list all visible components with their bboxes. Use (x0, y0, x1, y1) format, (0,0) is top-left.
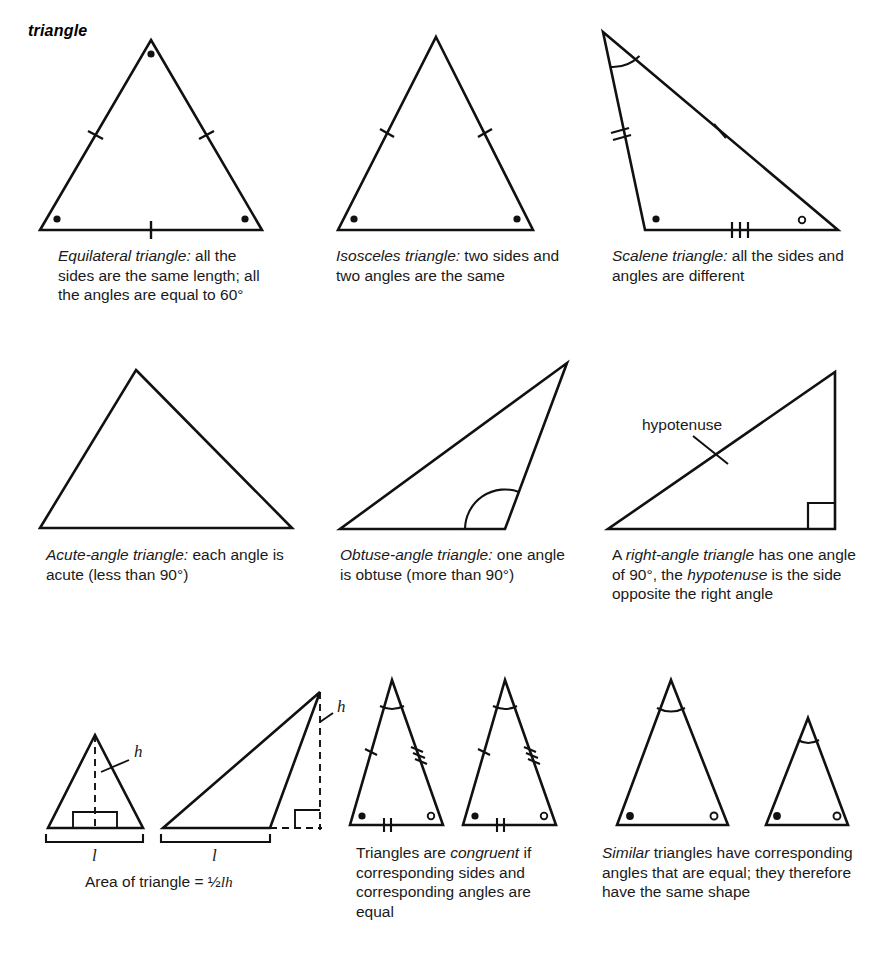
right-triangle-drawing: hypotenuse (590, 330, 878, 545)
area-obtuse-base-label: l (212, 846, 217, 865)
equilateral-triangle-drawing (0, 0, 300, 245)
angle-dot-base-left (350, 215, 357, 222)
caption-congruent-term: congruent (450, 844, 519, 861)
area-acute-height-label: h (134, 742, 143, 761)
congruent-1-outline (350, 680, 443, 825)
congruent-triangle-1 (350, 680, 443, 832)
angle-dot-base-right (513, 215, 520, 222)
angle-dot-base-right (241, 215, 248, 222)
figure-scalene-triangle (580, 0, 878, 245)
caption-right-angle: A right-angle triangle has one angle of … (612, 545, 860, 604)
caption-right-pre: A (612, 546, 626, 563)
caption-obtuse-term: Obtuse-angle triangle: (340, 546, 493, 563)
figure-obtuse-angle-triangle (295, 330, 595, 545)
figure-right-angle-triangle: hypotenuse (590, 330, 878, 545)
acute-outline (40, 370, 292, 528)
congruent-1-angle-circle-right (428, 813, 435, 820)
isosceles-outline (338, 37, 533, 230)
figure-equilateral-triangle (0, 0, 300, 245)
similar-large-outline (617, 680, 728, 825)
angle-dot-apex (147, 50, 154, 57)
similar-triangle-large (617, 680, 728, 825)
acute-triangle-drawing (0, 330, 300, 545)
area-obtuse-base-bracket (161, 834, 270, 842)
area-acute-h-leader (101, 760, 129, 772)
right-angle-square-icon (808, 503, 835, 529)
congruent-2-angle-dot-left (471, 812, 478, 819)
obtuse-triangle-drawing (295, 330, 595, 545)
congruent-1-angle-dot-left (358, 812, 365, 819)
caption-similar-term: Similar (602, 844, 649, 861)
caption-acute: Acute-angle triangle: each angle is acut… (46, 545, 286, 584)
similar-small-outline (766, 718, 848, 825)
caption-congruent: Triangles are congruent if corresponding… (356, 843, 568, 921)
congruent-triangles-drawing (340, 660, 570, 835)
similar-large-angle-circle-right (711, 813, 718, 820)
figure-similar-triangles (590, 660, 878, 835)
area-obtuse-outline (163, 692, 320, 828)
angle-circle-base-right (799, 217, 806, 224)
caption-scalene-term: Scalene triangle: (612, 247, 727, 264)
figure-area-of-triangle: h l h l (30, 660, 340, 840)
similar-small-apex-arc (798, 740, 819, 743)
scalene-triangle-drawing (580, 0, 878, 245)
congruent-2-outline (463, 680, 556, 825)
similar-triangle-small (766, 718, 848, 825)
area-diagrams-drawing: h l h l (30, 660, 340, 840)
area-formula-text: Area of triangle = ½ (85, 873, 221, 890)
congruent-2-angle-circle-right (541, 813, 548, 820)
tick-left-side-2 (613, 135, 631, 140)
caption-equilateral: Equilateral triangle: all the sides are … (58, 246, 273, 305)
caption-isosceles: Isosceles triangle: two sides and two an… (336, 246, 564, 285)
tick-left-side (88, 131, 103, 139)
caption-congruent-pre: Triangles are (356, 844, 450, 861)
caption-obtuse: Obtuse-angle triangle: one angle is obtu… (340, 545, 572, 584)
congruent-2-apex-arc (493, 706, 517, 709)
triangle-reference-page: triangle Equilateral triangle: all the s… (0, 0, 878, 955)
right-triangle-outline (608, 372, 835, 529)
angle-dot-base-left (53, 215, 60, 222)
congruent-1-apex-arc (380, 706, 404, 709)
obtuse-outline (340, 363, 567, 529)
area-acute-base-bracket (46, 834, 143, 842)
area-of-triangle-formula: Area of triangle = ½lh (85, 872, 345, 892)
figure-acute-angle-triangle (0, 330, 300, 545)
hypotenuse-label: hypotenuse (642, 416, 722, 433)
tick-hypotenuse (714, 124, 726, 138)
caption-acute-term: Acute-angle triangle: (46, 546, 188, 563)
caption-isosceles-term: Isosceles triangle: (336, 247, 460, 264)
similar-triangles-drawing (590, 660, 878, 835)
area-obtuse-right-angle-icon (295, 810, 320, 828)
similar-small-angle-dot-left (773, 812, 781, 820)
similar-small-angle-circle-right (834, 813, 841, 820)
angle-dot-base-left (652, 215, 659, 222)
equilateral-outline (40, 40, 262, 230)
area-obtuse-h-leader (320, 713, 333, 722)
caption-similar: Similar triangles have corresponding ang… (602, 843, 860, 902)
tick-left-side-1 (611, 128, 629, 133)
tick-right-side (199, 131, 214, 139)
area-formula-var-h: h (225, 873, 233, 890)
area-acute-base-label: l (92, 846, 97, 865)
figure-congruent-triangles (340, 660, 570, 835)
figure-isosceles-triangle (300, 0, 590, 245)
isosceles-triangle-drawing (300, 0, 590, 245)
caption-equilateral-term: Equilateral triangle: (58, 247, 191, 264)
angle-arc-obtuse (465, 489, 519, 529)
caption-scalene: Scalene triangle: all the sides and angl… (612, 246, 857, 285)
similar-large-angle-dot-left (626, 812, 634, 820)
caption-right-term-2: hypotenuse (687, 566, 767, 583)
caption-right-term-1: right-angle triangle (626, 546, 754, 563)
congruent-triangle-2 (463, 680, 556, 832)
